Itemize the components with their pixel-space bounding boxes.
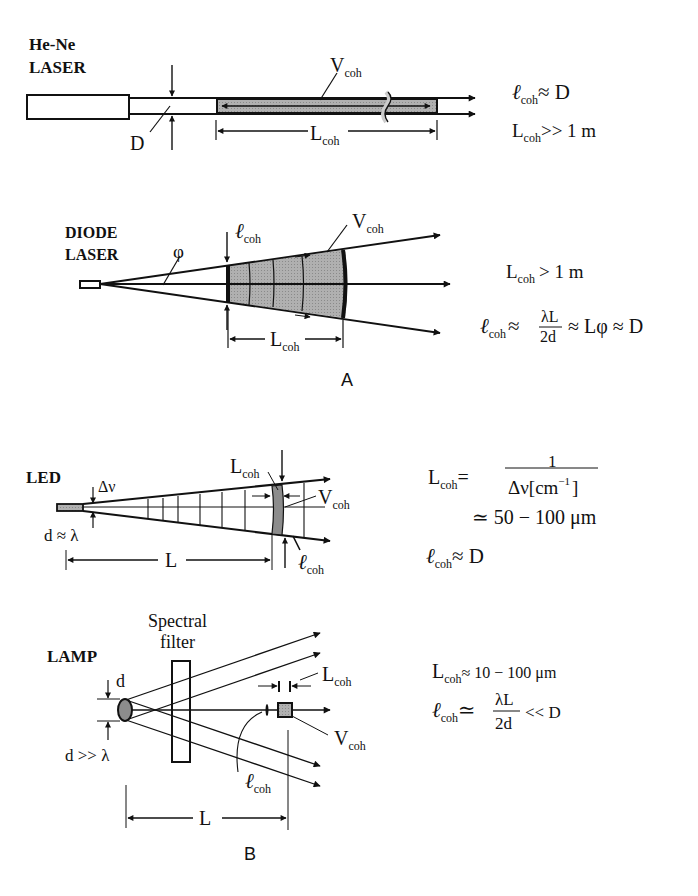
led-dnu-label: Δν: [98, 478, 116, 495]
diode-title-line2: LASER: [65, 246, 119, 263]
lamp-L-label: L: [199, 807, 211, 829]
lamp-source: [118, 699, 132, 721]
diode-title-line1: DIODE: [65, 224, 117, 241]
hene-eq-lcoh: ℓcoh≈ D: [512, 80, 570, 107]
lamp-Vcoh-label: Vcoh: [334, 727, 366, 753]
svg-text:Δν[cm−1]: Δν[cm−1]: [508, 475, 578, 498]
lamp-group: LAMP Spectral filter d d >> λ: [47, 611, 561, 830]
lamp-lcoh-label: ℓcoh: [245, 769, 271, 796]
led-eq-range: ≃ 50 − 100 μm: [472, 506, 597, 529]
svg-text:λL: λL: [495, 690, 514, 709]
led-coherence-volume: [272, 485, 284, 535]
diode-Vcoh-label: Vcoh: [352, 210, 384, 236]
svg-text:<< D: << D: [525, 703, 561, 722]
lamp-eq-Lcoh: Lcoh≈ 10 − 100 μm: [432, 660, 557, 686]
diode-laser-group: DIODE LASER φ ℓcoh Vcoh Lcoh: [65, 210, 643, 354]
lamp-coherence-volume: [278, 703, 292, 717]
led-lcoh-label: ℓcoh: [298, 550, 324, 577]
svg-text:λL: λL: [541, 308, 559, 325]
filter-label-line2: filter: [160, 632, 195, 652]
led-eq-Lcoh: Lcoh= 1 Δν[cm−1]: [428, 452, 598, 498]
led-Lcoh-label: Lcoh: [230, 455, 260, 481]
lamp-eq-lcoh: ℓcoh≃ λL 2d << D: [432, 690, 561, 733]
led-eq-lcoh: ℓcoh≈ D: [426, 544, 484, 571]
svg-text:ℓcoh≈: ℓcoh≈: [480, 314, 520, 341]
hene-title-line2: LASER: [29, 58, 86, 77]
hene-title-line1: He-Ne: [29, 35, 76, 54]
diode-eq-Lcoh: Lcoh> 1 m: [506, 261, 584, 286]
led-Vcoh-label: Vcoh: [318, 486, 350, 512]
lamp-d-label: d: [116, 671, 125, 691]
diode-eq-lcoh: ℓcoh≈ λL 2d ≈ Lφ ≈ D: [480, 308, 643, 345]
coherence-diagram: He-Ne LASER D Vcoh Lcoh ℓcoh≈ D Lcoh>> 1…: [0, 0, 698, 896]
diode-Lcoh-label: Lcoh: [270, 328, 300, 354]
led-title: LED: [26, 468, 61, 487]
hene-Lcoh-label: Lcoh: [310, 122, 340, 148]
hene-D-label: D: [130, 132, 144, 154]
svg-text:2d: 2d: [495, 714, 513, 733]
svg-text:ℓcoh≃: ℓcoh≃: [432, 698, 476, 725]
svg-text:≈ Lφ ≈ D: ≈ Lφ ≈ D: [568, 315, 643, 338]
led-L-label: L: [165, 549, 177, 571]
panel-label-B: B: [244, 844, 256, 864]
diode-chip: [80, 281, 100, 288]
svg-text:2d: 2d: [540, 328, 556, 345]
svg-text:Lcoh=: Lcoh=: [428, 466, 469, 492]
diode-phi-label: φ: [173, 241, 184, 262]
panel-label-A: A: [341, 370, 353, 390]
diode-lcoh-label: ℓcoh: [235, 219, 261, 246]
filter-label-line1: Spectral: [148, 611, 207, 631]
lamp-d-condition: d >> λ: [65, 746, 110, 765]
hene-laser-body: [27, 95, 129, 119]
hene-eq-Lcoh: Lcoh>> 1 m: [512, 120, 596, 145]
hene-laser-group: He-Ne LASER D Vcoh Lcoh ℓcoh≈ D Lcoh>> 1…: [27, 35, 596, 154]
led-group: LED Lcoh Vcoh ℓcoh Δ: [26, 450, 598, 577]
lamp-Lcoh-label: Lcoh: [322, 663, 352, 689]
lamp-title: LAMP: [47, 647, 97, 666]
led-chip: [57, 504, 83, 511]
led-d-label: d ≈ λ: [44, 526, 79, 545]
